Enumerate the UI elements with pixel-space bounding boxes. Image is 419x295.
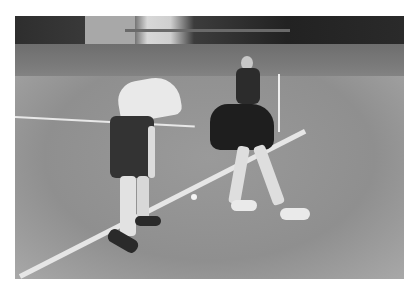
ball [191, 194, 197, 200]
batter-shoe [135, 216, 161, 226]
photograph [15, 16, 404, 279]
background-girl [236, 68, 260, 104]
bowler-body [210, 104, 274, 150]
stump [278, 74, 280, 132]
bowler-shoe [231, 200, 257, 211]
wooden-fence [125, 29, 290, 32]
bat [148, 126, 155, 178]
bowler-shoe [280, 208, 310, 220]
batter-leg [120, 176, 136, 236]
